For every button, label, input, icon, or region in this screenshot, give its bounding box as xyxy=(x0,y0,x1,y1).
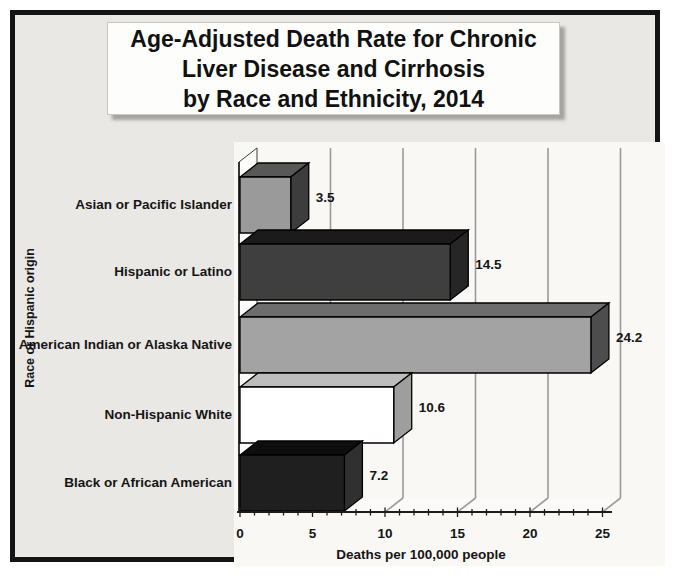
x-tick-label: 15 xyxy=(450,526,466,541)
bar-top-face xyxy=(240,373,412,387)
bar-front-face xyxy=(240,177,291,233)
bar-chart: 3.514.524.210.67.2Asian or Pacific Islan… xyxy=(0,0,682,578)
category-label: Hispanic or Latino xyxy=(114,264,232,279)
bar-top-face xyxy=(240,230,468,244)
bar-front-face xyxy=(240,387,394,443)
bar-hispanic-or-latino xyxy=(240,230,468,300)
bar-non-hispanic-white xyxy=(240,373,412,443)
value-label: 3.5 xyxy=(316,190,335,205)
x-tick-label: 5 xyxy=(309,526,317,541)
bar-american-indian-or-alaska-native xyxy=(240,303,609,373)
bar-top-face xyxy=(240,441,362,455)
category-label: Non-Hispanic White xyxy=(105,407,233,422)
category-label: Black or African American xyxy=(64,475,232,490)
figure: Age-Adjusted Death Rate for Chronic Live… xyxy=(0,0,682,578)
y-axis-title: Race or Hispanic origin xyxy=(23,248,37,388)
bar-asian-or-pacific-islander xyxy=(240,163,309,233)
category-label: American Indian or Alaska Native xyxy=(19,337,233,352)
value-label: 24.2 xyxy=(616,330,642,345)
x-tick-label: 10 xyxy=(377,526,392,541)
value-label: 14.5 xyxy=(475,257,502,272)
bar-front-face xyxy=(240,317,591,373)
x-tick-label: 25 xyxy=(595,526,611,541)
x-tick-label: 20 xyxy=(522,526,537,541)
bar-top-face xyxy=(240,303,609,317)
x-axis-title: Deaths per 100,000 people xyxy=(336,547,506,562)
bar-front-face xyxy=(240,455,344,511)
x-tick-label: 0 xyxy=(236,526,244,541)
value-label: 10.6 xyxy=(419,400,446,415)
category-label: Asian or Pacific Islander xyxy=(75,197,233,212)
bar-black-or-african-american xyxy=(240,441,362,511)
value-label: 7.2 xyxy=(369,468,388,483)
bar-front-face xyxy=(240,244,450,300)
